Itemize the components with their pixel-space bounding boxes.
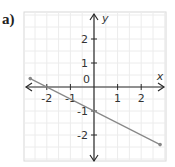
x-tick-label: 1: [114, 92, 121, 105]
y-tick-label: 2: [81, 33, 88, 46]
y-tick-label: 1: [81, 57, 88, 70]
x-axis-label: x: [156, 70, 164, 83]
line-graph: -2-11221-1-20xy: [0, 0, 175, 167]
y-tick-label: -2: [77, 129, 88, 142]
origin-label: 0: [83, 73, 90, 86]
x-tick-label: -2: [41, 92, 52, 105]
y-axis-label: y: [101, 12, 109, 25]
endpoint-marker: [28, 77, 32, 81]
x-tick-label: 2: [138, 92, 145, 105]
endpoint-marker: [158, 143, 162, 147]
